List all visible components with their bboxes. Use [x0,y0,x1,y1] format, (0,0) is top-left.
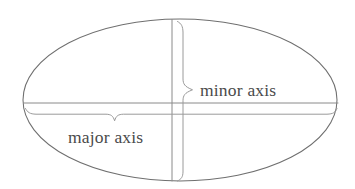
major-axis-brace [26,109,338,121]
minor-axis-label: minor axis [200,80,276,100]
major-axis-label: major axis [68,127,143,147]
figure-canvas: Ellipse with major and minor axes minor … [0,0,355,189]
minor-axis-brace [178,22,193,182]
ellipse-axes-diagram: Ellipse with major and minor axes minor … [0,0,355,189]
ellipse-outline [23,19,337,181]
